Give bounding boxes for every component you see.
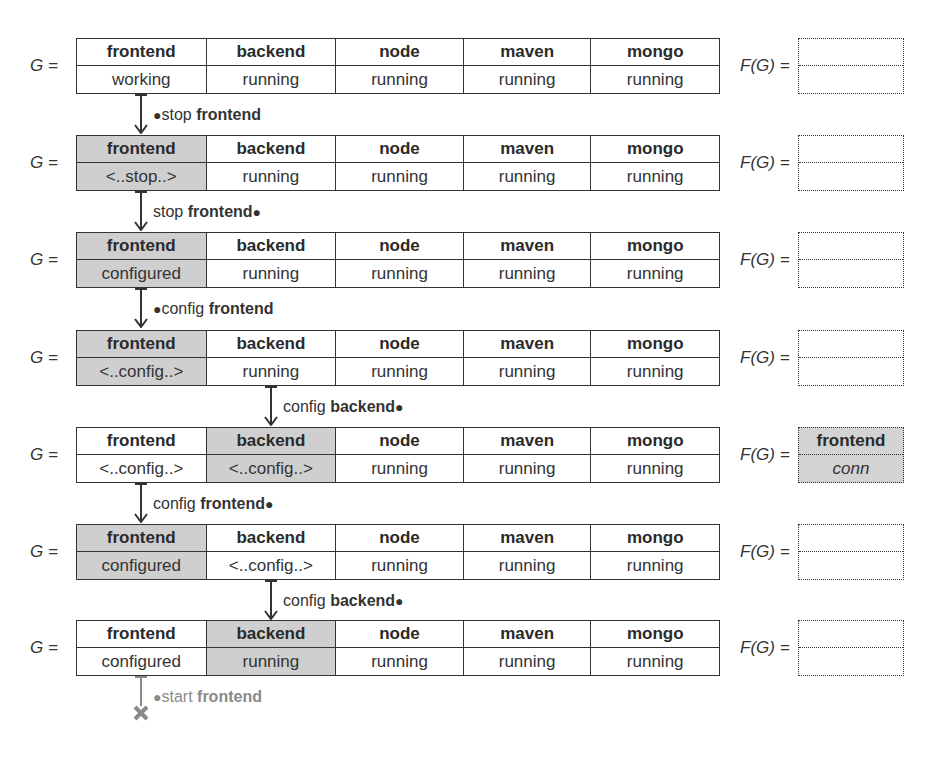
component-name: backend xyxy=(207,39,336,66)
transition-label: ●stop frontend xyxy=(153,105,261,125)
component-backend: backendrunning xyxy=(207,331,337,385)
fault-state: conn xyxy=(799,455,903,482)
g-label: G = xyxy=(30,56,74,76)
transition-label: config frontend● xyxy=(153,494,274,514)
component-name: maven xyxy=(464,525,591,552)
component-node: noderunning xyxy=(336,525,464,579)
component-state: running xyxy=(336,358,463,385)
component-maven: mavenrunning xyxy=(464,233,592,287)
transition-target: backend xyxy=(330,398,395,415)
fault-component-name xyxy=(799,621,903,648)
transition-label: config backend● xyxy=(283,591,404,611)
fg-label: F(G) = xyxy=(740,445,800,465)
transition-action: config xyxy=(283,592,326,609)
component-name: backend xyxy=(207,621,336,648)
component-state: running xyxy=(207,66,336,93)
component-state: <..config..> xyxy=(77,358,206,385)
fault-state xyxy=(799,66,903,93)
state-table: frontendconfiguredbackendrunningnoderunn… xyxy=(76,232,720,288)
transition-label: ●start frontend xyxy=(153,687,262,707)
transition-action: config xyxy=(153,495,196,512)
component-backend: backend<..config..> xyxy=(207,428,337,482)
transition-arrow-icon xyxy=(131,94,151,134)
transition-action: config xyxy=(161,300,204,317)
fault-box xyxy=(798,232,904,288)
fg-label: F(G) = xyxy=(740,348,800,368)
component-state: running xyxy=(336,260,463,287)
component-name: mongo xyxy=(591,428,719,455)
transition-arrow-icon xyxy=(261,386,281,426)
fault-component-name xyxy=(799,136,903,163)
component-state: running xyxy=(591,163,719,190)
component-node: noderunning xyxy=(336,428,464,482)
component-backend: backend<..config..> xyxy=(207,525,337,579)
component-state: running xyxy=(591,260,719,287)
component-backend: backendrunning xyxy=(207,233,337,287)
component-name: mongo xyxy=(591,233,719,260)
component-state: running xyxy=(464,455,591,482)
component-frontend: frontendconfigured xyxy=(77,525,207,579)
component-state: running xyxy=(207,163,336,190)
transition-target: frontend xyxy=(200,495,265,512)
component-mongo: mongorunning xyxy=(591,621,719,675)
component-name: mongo xyxy=(591,525,719,552)
transition-action: stop xyxy=(161,106,191,123)
component-state: running xyxy=(464,648,591,675)
component-frontend: frontend<..config..> xyxy=(77,428,207,482)
component-state: configured xyxy=(77,260,206,287)
fault-component-name xyxy=(799,39,903,66)
component-name: maven xyxy=(464,233,591,260)
component-frontend: frontendconfigured xyxy=(77,233,207,287)
fault-state xyxy=(799,163,903,190)
fault-component-name xyxy=(799,525,903,552)
g-label: G = xyxy=(30,250,74,270)
transition-target: frontend xyxy=(196,106,261,123)
transition-target: frontend xyxy=(188,203,253,220)
component-maven: mavenrunning xyxy=(464,621,592,675)
component-mongo: mongorunning xyxy=(591,39,719,93)
component-name: maven xyxy=(464,621,591,648)
component-name: frontend xyxy=(77,621,206,648)
fg-label: F(G) = xyxy=(740,56,800,76)
component-state: running xyxy=(464,260,591,287)
state-table: frontendconfiguredbackendrunningnoderunn… xyxy=(76,620,720,676)
state-table: frontend<..config..>backend<..config..>n… xyxy=(76,427,720,483)
failed-transition-arrow-icon xyxy=(131,676,151,722)
component-state: <..stop..> xyxy=(77,163,206,190)
component-frontend: frontendworking xyxy=(77,39,207,93)
g-label: G = xyxy=(30,542,74,562)
component-mongo: mongorunning xyxy=(591,331,719,385)
g-label: G = xyxy=(30,638,74,658)
component-backend: backendrunning xyxy=(207,621,337,675)
component-name: maven xyxy=(464,39,591,66)
bullet-icon: ● xyxy=(265,496,273,512)
fault-box: frontendconn xyxy=(798,427,904,483)
transition-action: stop xyxy=(153,203,183,220)
bullet-icon: ● xyxy=(253,204,261,220)
component-state: running xyxy=(591,358,719,385)
component-name: frontend xyxy=(77,39,206,66)
component-maven: mavenrunning xyxy=(464,525,592,579)
fault-state xyxy=(799,260,903,287)
component-name: mongo xyxy=(591,331,719,358)
component-name: backend xyxy=(207,525,336,552)
component-backend: backendrunning xyxy=(207,136,337,190)
fault-component-name xyxy=(799,331,903,358)
component-backend: backendrunning xyxy=(207,39,337,93)
transition-target: frontend xyxy=(197,688,262,705)
transition-label: stop frontend● xyxy=(153,202,261,222)
component-frontend: frontend<..stop..> xyxy=(77,136,207,190)
component-state: running xyxy=(336,163,463,190)
component-state: running xyxy=(464,358,591,385)
fault-state xyxy=(799,358,903,385)
fault-state xyxy=(799,552,903,579)
component-state: running xyxy=(591,66,719,93)
component-state: running xyxy=(336,66,463,93)
component-state: running xyxy=(336,455,463,482)
fault-state xyxy=(799,648,903,675)
fg-label: F(G) = xyxy=(740,638,800,658)
component-name: node xyxy=(336,428,463,455)
state-table: frontend<..stop..>backendrunningnoderunn… xyxy=(76,135,720,191)
component-name: backend xyxy=(207,428,336,455)
component-name: node xyxy=(336,136,463,163)
